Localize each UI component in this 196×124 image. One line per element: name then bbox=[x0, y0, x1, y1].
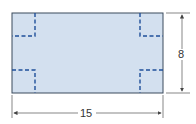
height-label: 8 bbox=[178, 48, 184, 60]
width-label: 15 bbox=[80, 107, 92, 119]
box-net-diagram: 8 15 bbox=[0, 0, 196, 124]
